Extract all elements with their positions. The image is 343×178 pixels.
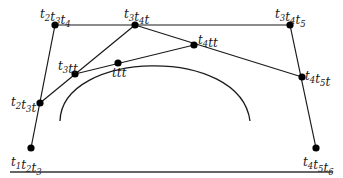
label-t2t3t4: t2t3t4 <box>40 7 71 29</box>
point-t4t5t6 <box>312 144 319 151</box>
point-t1t2t3 <box>27 144 34 151</box>
control-polygon-edges <box>31 25 316 148</box>
edge-t3t4t-t4t5t <box>135 25 302 77</box>
label-t2t3t: t2t3t <box>11 95 37 115</box>
edge-t1t2t3-t2t3t4 <box>31 25 55 148</box>
label-t3t4t5: t3t4t5 <box>275 7 306 29</box>
label-t4t5t: t4t5t <box>305 69 331 89</box>
blossom-labels: t1t2t3t2t3tt2t3t4t3t4tt3t4t5t3tttttt4ttt… <box>11 7 334 177</box>
spline-curve <box>60 66 250 121</box>
label-t4tt: t4tt <box>198 33 218 50</box>
point-t4tt <box>190 41 197 48</box>
label-t4t5t6: t4t5t6 <box>303 155 334 177</box>
point-t2t3t <box>36 99 43 106</box>
de-boor-diagram: t1t2t3t2t3tt2t3t4t3t4tt3t4t5t3tttttt4ttt… <box>0 0 343 178</box>
label-ttt: ttt <box>112 66 127 80</box>
blossom-points <box>27 21 319 151</box>
label-t3tt: t3tt <box>58 59 78 76</box>
edge-t3t4t5-t4t5t6 <box>290 25 316 148</box>
label-t1t2t3: t1t2t3 <box>11 155 42 177</box>
